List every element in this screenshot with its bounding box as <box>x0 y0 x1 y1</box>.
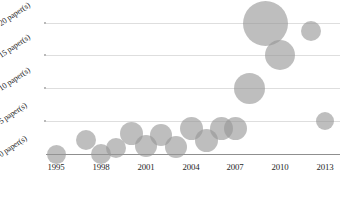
bubble-1995 <box>47 145 66 164</box>
x-axis-label-1995: 1995 <box>48 162 65 172</box>
y-tick-mark-5 <box>44 120 46 122</box>
x-axis-label-1998: 1998 <box>93 162 110 172</box>
y-tick-mark-15 <box>44 54 46 56</box>
bubble-2007 <box>224 117 247 140</box>
bubble-2013 <box>316 112 334 130</box>
y-axis-label-15: 15 paper(s) <box>0 32 32 60</box>
bubble-2010 <box>265 40 295 70</box>
gridline-y-20 <box>46 23 340 24</box>
y-axis-label-10: 10 paper(s) <box>0 65 32 93</box>
plot-area: 20 paper(s)15 paper(s)10 paper(s)5 paper… <box>0 0 343 222</box>
x-axis-label-2013: 2013 <box>317 162 334 172</box>
bubble-2012 <box>301 21 321 41</box>
y-axis-label-5: 5 paper(s) <box>0 101 29 126</box>
gridline-y-15 <box>46 55 340 56</box>
x-axis-label-2001: 2001 <box>138 162 155 172</box>
y-axis-label-0: 0 paper(s) <box>0 134 29 159</box>
bubble-2003 <box>165 136 187 158</box>
y-axis-label-20: 20 paper(s) <box>0 0 32 28</box>
bubble-2009 <box>243 1 288 46</box>
x-axis-label-2004: 2004 <box>183 162 200 172</box>
x-axis-label-2010: 2010 <box>272 162 289 172</box>
y-tick-mark-20 <box>44 22 46 24</box>
bubble-chart: 20 paper(s)15 paper(s)10 paper(s)5 paper… <box>0 0 343 222</box>
gridline-y-10 <box>46 88 340 89</box>
bubble-2008 <box>234 73 265 104</box>
x-axis-label-2007: 2007 <box>227 162 244 172</box>
y-tick-mark-10 <box>44 87 46 89</box>
